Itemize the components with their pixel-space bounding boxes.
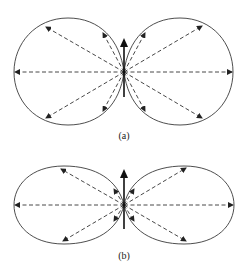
panel-b-label: (b) — [104, 250, 144, 261]
panel-b — [14, 166, 234, 244]
right-lobe-a — [124, 18, 233, 125]
left-lobe-a — [14, 18, 124, 125]
panel-a-label: (a) — [104, 130, 144, 141]
panel-a — [14, 18, 233, 125]
